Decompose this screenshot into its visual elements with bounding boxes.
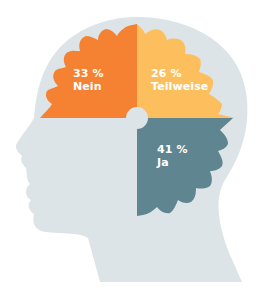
label-ja-name: Ja: [157, 156, 188, 169]
label-ja: 41 % Ja: [157, 143, 188, 169]
label-nein-value: 33 %: [73, 67, 104, 80]
label-nein-name: Nein: [73, 80, 104, 93]
head-gear-chart: [0, 0, 260, 300]
label-teilweise: 26 % Teilweise: [151, 67, 208, 93]
label-ja-value: 41 %: [157, 143, 188, 156]
label-nein: 33 % Nein: [73, 67, 104, 93]
label-teilweise-value: 26 %: [151, 67, 208, 80]
label-teilweise-name: Teilweise: [151, 80, 208, 93]
